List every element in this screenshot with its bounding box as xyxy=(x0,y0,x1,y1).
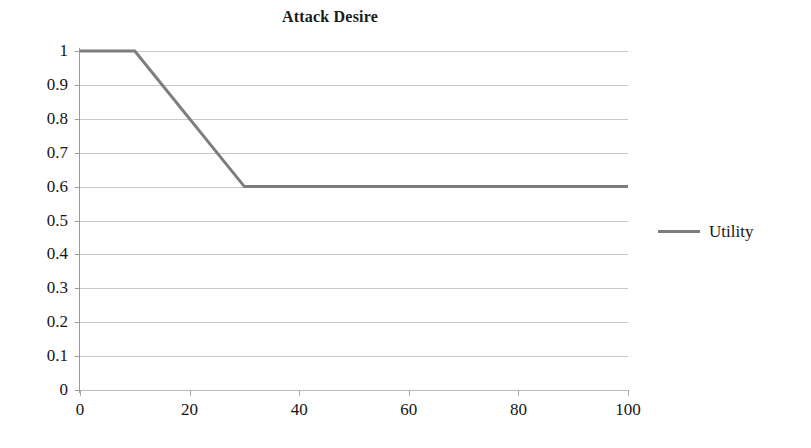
y-axis-tick xyxy=(75,119,80,120)
legend-label-utility: Utility xyxy=(709,222,753,241)
y-axis-tick xyxy=(75,51,80,52)
x-axis-tick xyxy=(628,390,629,396)
x-axis-label: 100 xyxy=(593,400,663,419)
y-axis-tick xyxy=(75,85,80,86)
x-axis-label: 40 xyxy=(264,400,334,419)
chart-figure: Attack Desire 10.90.80.70.60.50.40.30.20… xyxy=(0,0,811,448)
x-axis-tick xyxy=(80,390,81,396)
legend-line-swatch xyxy=(658,230,700,233)
x-axis-label: 20 xyxy=(155,400,225,419)
x-axis-label: 0 xyxy=(45,400,115,419)
y-axis-tick xyxy=(75,153,80,154)
x-axis-label: 80 xyxy=(483,400,553,419)
y-axis-tick xyxy=(75,288,80,289)
legend: Utility xyxy=(658,222,753,241)
y-axis-tick xyxy=(75,254,80,255)
x-axis-label: 60 xyxy=(374,400,444,419)
x-axis-tick xyxy=(190,390,191,396)
x-axis-tick xyxy=(409,390,410,396)
y-axis-tick xyxy=(75,322,80,323)
x-axis-tick xyxy=(299,390,300,396)
x-axis-tick xyxy=(518,390,519,396)
y-axis-tick xyxy=(75,187,80,188)
y-axis-tick xyxy=(75,356,80,357)
y-axis-tick xyxy=(75,221,80,222)
